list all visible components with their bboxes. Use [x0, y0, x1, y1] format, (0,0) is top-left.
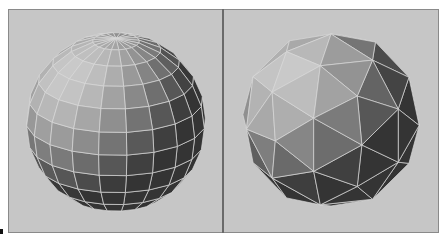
edge-mark: [0, 229, 3, 234]
mesh-face: [104, 66, 124, 86]
mesh-face: [99, 132, 127, 155]
mesh-face: [99, 109, 126, 133]
mesh-face: [101, 192, 125, 204]
mesh-face: [72, 151, 99, 175]
geodesic-sphere-render: [224, 9, 439, 233]
mesh-face: [126, 152, 153, 175]
mesh-face: [101, 86, 125, 109]
mesh-face: [126, 130, 153, 156]
mesh-face: [99, 175, 126, 192]
mesh-face: [72, 129, 99, 155]
mesh-face: [125, 106, 152, 132]
mesh-face: [99, 155, 127, 176]
mesh-face: [125, 173, 152, 193]
geodesic-sphere-panel: [224, 9, 439, 233]
mesh-face: [104, 204, 124, 211]
mesh-face: [74, 105, 101, 132]
uv-sphere-panel: [8, 9, 222, 233]
uv-sphere-render: [8, 9, 222, 233]
